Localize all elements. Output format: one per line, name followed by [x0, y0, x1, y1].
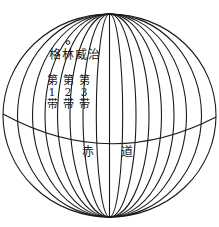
zone-1-label: 第 1 带 — [45, 75, 59, 111]
zone-1-suffix: 带 — [45, 99, 59, 111]
globe-diagram — [0, 0, 219, 227]
greenwich-marker-icon — [66, 41, 70, 45]
zone-3-suffix: 带 — [77, 99, 91, 111]
greenwich-label: 格林威治 — [49, 49, 101, 61]
equator-label-right: 道 — [121, 146, 133, 158]
zone-2-suffix: 带 — [61, 99, 75, 111]
zone-3-label: 第 3 带 — [77, 75, 91, 111]
zone-2-label: 第 2 带 — [61, 75, 75, 111]
equator-label-left: 赤 — [82, 146, 94, 158]
